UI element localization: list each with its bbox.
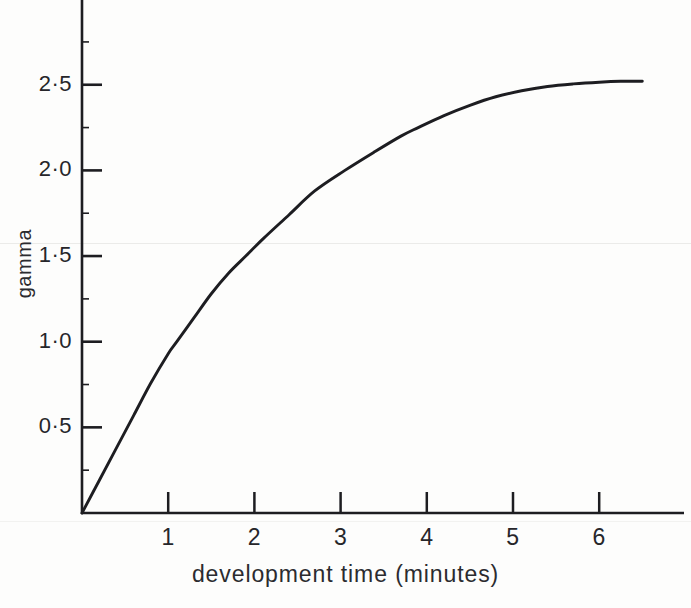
x-axis-tick-label: 5	[493, 524, 533, 551]
x-axis-tick-label: 2	[234, 524, 274, 551]
x-axis-tick-label: 1	[148, 524, 188, 551]
figure-container: 0·51·01·52·02·5 123456 gamma development…	[0, 0, 691, 608]
y-axis-major-ticks	[83, 85, 102, 428]
x-axis-major-ticks	[168, 492, 599, 512]
figure-caption	[0, 596, 691, 608]
x-axis-tick-label: 4	[407, 524, 447, 551]
x-axis-tick-label: 6	[579, 524, 619, 551]
y-axis-tick-label: 2·5	[12, 71, 72, 97]
y-axis-tick-label: 2·0	[12, 156, 72, 182]
y-axis-title: gamma	[13, 194, 36, 334]
x-axis-title: development time (minutes)	[0, 561, 691, 588]
data-curve-gamma	[82, 81, 642, 513]
y-axis-tick-label: 0·5	[12, 413, 72, 439]
x-axis-tick-label: 3	[321, 524, 361, 551]
chart-plot-area	[0, 0, 691, 608]
